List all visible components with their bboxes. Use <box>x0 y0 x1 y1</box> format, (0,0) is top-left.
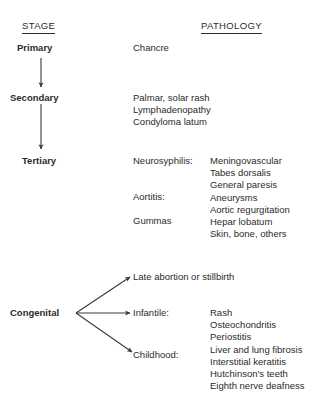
tertiary-finding-1: Meningovascular <box>210 155 290 167</box>
congenital-branch-late-abortion: Late abortion or stillbirth <box>133 271 234 283</box>
pathology-primary-chancre: Chancre <box>133 42 169 54</box>
tertiary-category-gummas: Gummas <box>133 215 172 227</box>
congenital-finding-2: Osteochondritis <box>210 319 305 331</box>
congenital-finding-6: Hutchinson's teeth <box>210 368 305 380</box>
arrow-congenital-to-childhood <box>76 313 132 352</box>
pathology-secondary-list: Palmar, solar rash Lymphadenopathy Condy… <box>133 92 211 129</box>
congenital-finding-7: Eighth nerve deafness <box>210 380 305 392</box>
pathology-secondary-item-1: Palmar, solar rash <box>133 92 211 104</box>
congenital-branch-childhood: Childhood: <box>133 349 178 361</box>
tertiary-findings-list: Meningovascular Tabes dorsalis General p… <box>210 155 290 240</box>
stage-label-tertiary: Tertiary <box>22 155 56 167</box>
tertiary-finding-3: General paresis <box>210 179 290 191</box>
tertiary-finding-2: Tabes dorsalis <box>210 167 290 179</box>
tertiary-finding-4: Aneurysms <box>210 192 290 204</box>
congenital-finding-1: Rash <box>210 307 305 319</box>
column-header-stage: STAGE <box>22 20 55 34</box>
stage-label-congenital: Congenital <box>10 307 59 319</box>
arrow-congenital-to-late-abortion <box>76 277 130 313</box>
pathology-secondary-item-2: Lymphadenopathy <box>133 104 211 116</box>
congenital-findings-list: Rash Osteochondritis Periostitis Liver a… <box>210 307 305 392</box>
congenital-finding-4: Liver and lung fibrosis <box>210 344 305 356</box>
syphilis-stage-diagram: STAGE PATHOLOGY Primary Chancre Secondar… <box>0 0 320 400</box>
congenital-branch-infantile: Infantile: <box>133 307 169 319</box>
congenital-finding-3: Periostitis <box>210 331 305 343</box>
pathology-secondary-item-3: Condyloma latum <box>133 116 211 128</box>
congenital-finding-5: Interstitial keratitis <box>210 356 305 368</box>
tertiary-category-aortitis: Aortitis: <box>133 191 165 203</box>
stage-label-primary: Primary <box>17 42 52 54</box>
tertiary-finding-6: Hepar lobatum <box>210 216 290 228</box>
tertiary-category-neurosyphilis: Neurosyphilis: <box>133 155 193 167</box>
tertiary-finding-5: Aortic regurgitation <box>210 204 290 216</box>
column-header-pathology: PATHOLOGY <box>201 20 262 34</box>
tertiary-finding-7: Skin, bone, others <box>210 228 290 240</box>
stage-label-secondary: Secondary <box>10 92 59 104</box>
